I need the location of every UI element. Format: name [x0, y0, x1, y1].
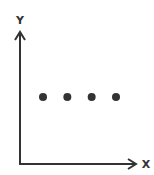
data-points [39, 93, 120, 101]
scatter-plot: Y X [0, 0, 154, 175]
data-point [112, 93, 120, 101]
y-axis-label: Y [15, 14, 25, 27]
data-point [63, 93, 71, 101]
data-point [88, 93, 96, 101]
data-point [39, 93, 47, 101]
x-axis-label: X [142, 158, 151, 171]
